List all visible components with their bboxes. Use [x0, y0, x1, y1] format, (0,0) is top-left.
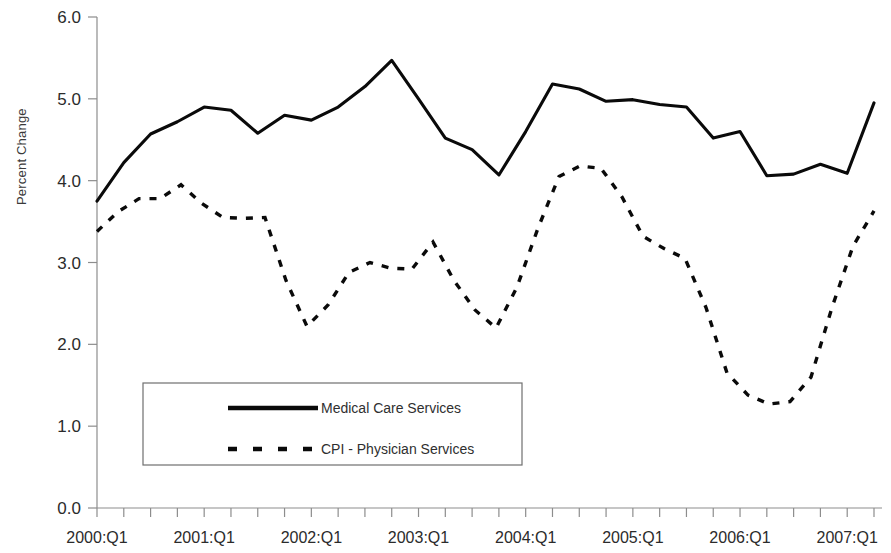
y-tick-label: 2.0 [57, 335, 81, 354]
x-tick-label: 2007:Q1 [817, 529, 878, 546]
line-chart-plot: 0.01.02.03.04.05.06.0 2000:Q12001:Q12002… [0, 0, 891, 553]
x-tick-label: 2005:Q1 [602, 529, 663, 546]
x-axis-ticks: 2000:Q12001:Q12002:Q12003:Q12004:Q12005:… [66, 508, 878, 546]
x-tick-label: 2002:Q1 [281, 529, 342, 546]
y-axis-ticks: 0.01.02.03.04.05.06.0 [57, 8, 97, 518]
y-tick-label: 0.0 [57, 499, 81, 518]
x-tick-label: 2004:Q1 [495, 529, 556, 546]
series-line-medical-care-services [97, 60, 874, 201]
y-tick-label: 5.0 [57, 90, 81, 109]
x-tick-label: 2003:Q1 [388, 529, 449, 546]
legend-label: CPI - Physician Services [321, 441, 474, 457]
chart-legend: Medical Care ServicesCPI - Physician Ser… [143, 383, 522, 465]
legend-label: Medical Care Services [321, 400, 461, 416]
y-tick-label: 3.0 [57, 254, 81, 273]
x-tick-label: 2000:Q1 [66, 529, 127, 546]
y-tick-label: 4.0 [57, 172, 81, 191]
y-tick-label: 1.0 [57, 417, 81, 436]
y-tick-label: 6.0 [57, 8, 81, 27]
series-line-cpi-physician-services [97, 166, 874, 404]
x-tick-label: 2006:Q1 [709, 529, 770, 546]
x-tick-label: 2001:Q1 [173, 529, 234, 546]
chart-container: Percent Change 0.01.02.03.04.05.06.0 200… [0, 0, 891, 553]
